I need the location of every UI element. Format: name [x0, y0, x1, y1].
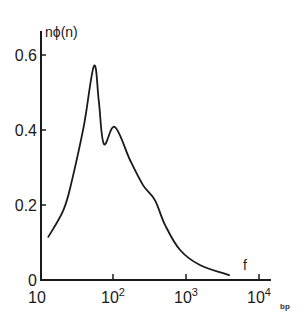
- spectrum-chart: 00.20.40.6 10102103104 nϕ(n) f bp: [0, 0, 307, 325]
- y-tick-label: 0.4: [15, 122, 37, 139]
- x-tick-label: 10: [28, 289, 46, 306]
- y-tick-label: 0.6: [15, 47, 37, 64]
- x-tick-label: 104: [247, 286, 271, 306]
- x-ticks: 10102103104: [28, 274, 271, 306]
- x-tick-label: 103: [174, 286, 198, 306]
- y-axis-title: nϕ(n): [45, 24, 78, 40]
- x-axis-title: f: [243, 257, 247, 273]
- data-line: [48, 65, 229, 275]
- y-tick-label: 0.2: [15, 197, 37, 214]
- y-tick-label: 0: [28, 272, 37, 289]
- x-tick-label: 102: [101, 286, 125, 306]
- corner-mark: bp: [280, 302, 290, 311]
